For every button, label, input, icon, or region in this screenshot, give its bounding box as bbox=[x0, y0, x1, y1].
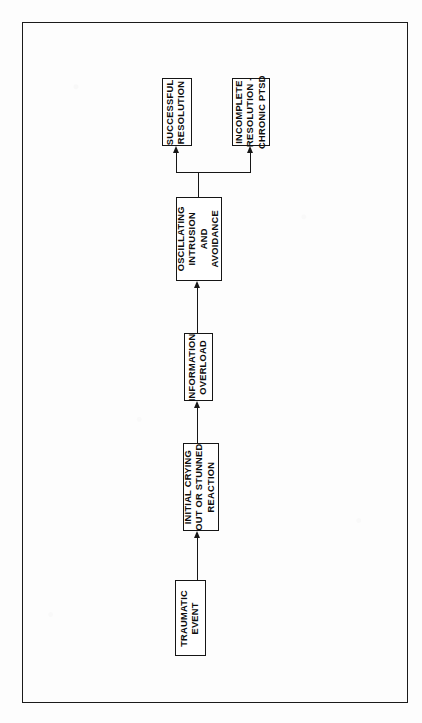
page-border bbox=[22, 22, 408, 703]
edge-oscillating-to-successful-stem bbox=[176, 153, 177, 173]
node-text-line: RESOLUTION bbox=[177, 79, 188, 145]
node-incomplete-resolution-label: INCOMPLETE RESOLUTION - CHRONIC PTSD bbox=[234, 75, 268, 149]
node-text-line: TRAUMATIC bbox=[179, 590, 190, 647]
node-text-line: RESOLUTION - bbox=[245, 75, 256, 149]
node-text-line: CHRONIC PTSD bbox=[257, 75, 268, 149]
node-oscillating-intrusion-avoidance-label: OSCILLATING INTRUSION AND AVOIDANCE bbox=[176, 206, 222, 271]
edge-event-to-crying-arrowhead bbox=[194, 531, 200, 538]
node-text-line: INITIAL CRYING bbox=[184, 443, 195, 530]
node-text-line: AND bbox=[199, 206, 210, 271]
branch-trunk bbox=[198, 172, 199, 197]
node-text-line: INTRUSION bbox=[188, 206, 199, 271]
node-incomplete-resolution: INCOMPLETE RESOLUTION - CHRONIC PTSD bbox=[232, 78, 270, 146]
node-successful-resolution-label: SUCCESSFUL RESOLUTION bbox=[166, 79, 189, 145]
node-text-line: OVERLOAD bbox=[199, 333, 210, 401]
edge-event-to-crying-stem bbox=[197, 538, 198, 580]
edge-overload-to-oscillating-stem bbox=[197, 288, 198, 333]
diagram-page: TRAUMATIC EVENT INITIAL CRYING OUT OR ST… bbox=[0, 0, 422, 723]
edge-crying-to-overload-arrowhead bbox=[194, 401, 200, 408]
node-initial-crying-out: INITIAL CRYING OUT OR STUNNED REACTION bbox=[183, 443, 219, 531]
edge-oscillating-to-incomplete-stem bbox=[250, 153, 251, 173]
node-information-overload: INFORMATION OVERLOAD bbox=[184, 333, 213, 401]
node-traumatic-event-label: TRAUMATIC EVENT bbox=[179, 590, 202, 647]
node-successful-resolution: SUCCESSFUL RESOLUTION bbox=[162, 78, 192, 146]
node-text-line: SUCCESSFUL bbox=[166, 79, 177, 145]
node-information-overload-label: INFORMATION OVERLOAD bbox=[187, 333, 210, 401]
edge-overload-to-oscillating-arrowhead bbox=[194, 281, 200, 288]
node-text-line: OUT OR STUNNED bbox=[195, 443, 206, 530]
node-text-line: EVENT bbox=[191, 590, 202, 647]
node-text-line: REACTION bbox=[207, 443, 218, 530]
node-text-line: INCOMPLETE bbox=[234, 75, 245, 149]
edge-oscillating-to-successful-arrowhead bbox=[173, 146, 179, 153]
node-oscillating-intrusion-avoidance: OSCILLATING INTRUSION AND AVOIDANCE bbox=[176, 197, 222, 281]
node-text-line: INFORMATION bbox=[187, 333, 198, 401]
node-text-line: AVOIDANCE bbox=[210, 206, 221, 271]
edge-crying-to-overload-stem bbox=[197, 408, 198, 443]
branch-horizontal-rail bbox=[176, 172, 251, 173]
node-text-line: OSCILLATING bbox=[176, 206, 187, 271]
node-initial-crying-out-label: INITIAL CRYING OUT OR STUNNED REACTION bbox=[184, 443, 218, 530]
node-traumatic-event: TRAUMATIC EVENT bbox=[175, 580, 206, 656]
